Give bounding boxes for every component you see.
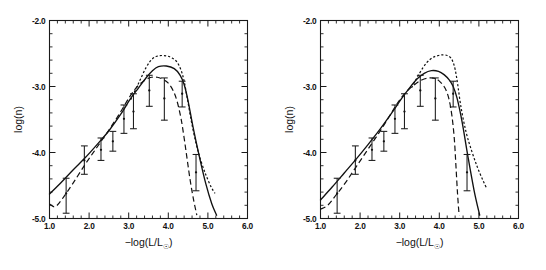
data-point xyxy=(392,105,399,133)
model-curve-dotted xyxy=(131,55,215,193)
data-point xyxy=(146,75,153,106)
y-axis-label: log(n) xyxy=(12,106,24,133)
x-tick-label: 5.0 xyxy=(202,221,214,231)
data-point xyxy=(432,78,439,120)
chart-svg-left: 1.02.03.04.05.06.0-2.0-3.0-4.0-5.0 −log(… xyxy=(0,0,273,270)
axis-tick-labels: 1.02.03.04.05.06.0-2.0-3.0-4.0-5.0 xyxy=(303,16,525,231)
y-tick-label: -3.0 xyxy=(32,82,46,92)
model-curve-solid xyxy=(321,71,480,216)
y-tick-label: -5.0 xyxy=(303,214,317,224)
model-curve-solid xyxy=(50,66,217,215)
data-point xyxy=(380,131,387,151)
data-point xyxy=(98,138,105,160)
model-curve-dashed xyxy=(321,78,460,215)
x-tick-label: 3.0 xyxy=(123,221,135,231)
model-curves xyxy=(50,55,217,215)
y-tick-label: -2.0 xyxy=(303,16,317,26)
y-axis-label: log(n) xyxy=(283,106,295,133)
data-point xyxy=(369,138,376,160)
x-tick-label: 2.0 xyxy=(84,221,96,231)
x-tick-label: 6.0 xyxy=(242,221,254,231)
data-point xyxy=(109,131,116,151)
x-tick-label: 5.0 xyxy=(473,221,485,231)
y-tick-label: -3.0 xyxy=(303,82,317,92)
luminosity-function-figure: 1.02.03.04.05.06.0-2.0-3.0-4.0-5.0 −log(… xyxy=(0,0,546,270)
plot-frame xyxy=(50,21,248,219)
chart-svg-right: 1.02.03.04.05.06.0-2.0-3.0-4.0-5.0 −log(… xyxy=(273,0,546,270)
x-tick-label: 1.0 xyxy=(315,221,327,231)
model-curve-dashed xyxy=(50,77,197,215)
x-tick-label: 6.0 xyxy=(513,221,525,231)
data-points-with-errorbars xyxy=(63,75,200,213)
axis-ticks xyxy=(321,21,519,219)
chart-panel-left: 1.02.03.04.05.06.0-2.0-3.0-4.0-5.0 −log(… xyxy=(0,0,273,270)
y-tick-label: -2.0 xyxy=(32,16,46,26)
x-tick-label: 4.0 xyxy=(163,221,175,231)
x-tick-label: 1.0 xyxy=(44,221,56,231)
axis-ticks xyxy=(50,21,248,219)
model-curves xyxy=(321,55,487,215)
data-point xyxy=(161,78,168,120)
data-point xyxy=(401,94,408,129)
data-point xyxy=(193,154,200,190)
chart-panel-right: 1.02.03.04.05.06.0-2.0-3.0-4.0-5.0 −log(… xyxy=(273,0,546,270)
x-tick-label: 4.0 xyxy=(434,221,446,231)
x-axis-label: −log(L/L☉) xyxy=(125,236,173,250)
y-tick-label: -4.0 xyxy=(303,148,317,158)
x-tick-label: 3.0 xyxy=(394,221,406,231)
x-axis-label: −log(L/L☉) xyxy=(396,236,444,250)
x-tick-label: 2.0 xyxy=(355,221,367,231)
plot-frame xyxy=(321,21,519,219)
data-point xyxy=(63,178,70,213)
data-point xyxy=(464,154,471,190)
y-tick-label: -5.0 xyxy=(32,214,46,224)
data-point xyxy=(352,146,359,174)
axis-tick-labels: 1.02.03.04.05.06.0-2.0-3.0-4.0-5.0 xyxy=(32,16,254,231)
y-tick-label: -4.0 xyxy=(32,148,46,158)
